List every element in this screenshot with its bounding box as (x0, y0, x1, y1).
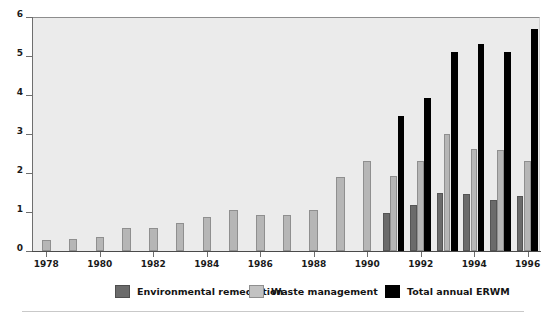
y-tick-label: 5 (17, 49, 23, 58)
bar-wst-1978 (42, 240, 51, 251)
x-tick-label: 1978 (26, 259, 66, 269)
x-tick-mark (46, 252, 47, 257)
x-tick-label: 1986 (240, 259, 280, 269)
footer-divider (22, 311, 524, 312)
bar-wst-1993 (444, 134, 451, 251)
y-tick-mark (26, 173, 32, 174)
bar-wst-1986 (256, 215, 265, 251)
x-tick-label: 1980 (80, 259, 120, 269)
legend-label: Waste management (271, 286, 378, 297)
bar-wst-1989 (336, 177, 345, 251)
x-tick-label: 1990 (347, 259, 387, 269)
bar-tot-1994 (478, 44, 485, 251)
legend-item-tot[interactable]: Total annual ERWM (385, 284, 510, 298)
x-tick-label: 1994 (454, 259, 494, 269)
y-tick-label: 6 (17, 10, 23, 19)
legend-swatch-tot (385, 285, 400, 298)
x-tick-mark (207, 252, 208, 257)
bar-rem-1995 (490, 200, 497, 251)
bar-tot-1992 (424, 98, 431, 251)
x-tick-mark (528, 252, 529, 257)
x-tick-mark (153, 252, 154, 257)
x-tick-label: 1988 (294, 259, 334, 269)
bar-wst-1987 (283, 215, 292, 251)
legend-swatch-wst (249, 285, 264, 298)
x-tick-mark (100, 252, 101, 257)
chart-legend: Environmental remediationWaste managemen… (0, 282, 546, 304)
bar-wst-1996 (524, 161, 531, 251)
bars-layer (33, 17, 541, 251)
x-tick-mark (367, 252, 368, 257)
bar-wst-1985 (229, 210, 238, 251)
bar-tot-1993 (451, 52, 458, 251)
bar-tot-1995 (504, 52, 511, 251)
y-tick-label: 1 (17, 205, 23, 214)
legend-label: Total annual ERWM (407, 286, 510, 297)
x-tick-label: 1992 (401, 259, 441, 269)
bar-wst-1984 (203, 217, 212, 251)
bar-tot-1996 (531, 29, 538, 251)
y-tick-mark (26, 95, 32, 96)
x-tick-mark (260, 252, 261, 257)
y-tick-label: 3 (17, 127, 23, 136)
bar-rem-1994 (463, 194, 470, 251)
bar-chart: 0123456 19781980198219841986198819901992… (0, 0, 546, 317)
bar-wst-1994 (471, 149, 478, 251)
bar-wst-1983 (176, 223, 185, 251)
bar-wst-1992 (417, 161, 424, 251)
x-tick-label: 1982 (133, 259, 173, 269)
x-tick-mark (314, 252, 315, 257)
x-tick-mark (421, 252, 422, 257)
x-tick-mark (474, 252, 475, 257)
x-axis-line (32, 251, 541, 252)
bar-wst-1995 (497, 150, 504, 251)
y-tick-mark (26, 251, 32, 252)
bar-wst-1980 (96, 237, 105, 251)
legend-item-wst[interactable]: Waste management (249, 284, 378, 298)
y-tick-mark (26, 56, 32, 57)
bar-wst-1979 (69, 239, 78, 251)
bar-tot-1991 (398, 116, 405, 251)
y-tick-mark (26, 212, 32, 213)
bar-wst-1982 (149, 228, 158, 251)
bar-wst-1990 (363, 161, 372, 251)
bar-wst-1988 (309, 210, 318, 251)
y-tick-label: 0 (17, 244, 23, 253)
y-tick-mark (26, 134, 32, 135)
y-tick-label: 2 (17, 166, 23, 175)
x-tick-label: 1984 (187, 259, 227, 269)
bar-rem-1992 (410, 205, 417, 251)
bar-wst-1991 (390, 176, 397, 251)
bar-wst-1981 (122, 228, 131, 251)
bar-rem-1991 (383, 213, 390, 251)
legend-swatch-rem (115, 285, 130, 298)
bar-rem-1993 (437, 193, 444, 252)
bar-rem-1996 (517, 196, 524, 251)
y-tick-mark (26, 17, 32, 18)
x-tick-label: 1996 (508, 259, 546, 269)
y-tick-label: 4 (17, 88, 23, 97)
